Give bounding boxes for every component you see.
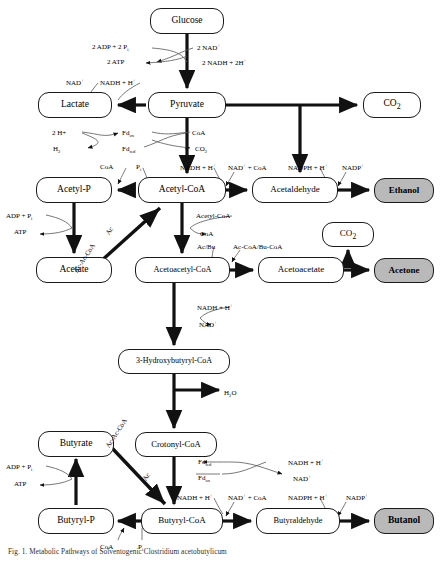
node-butyryl-p: Butyryl-P bbox=[38, 508, 114, 534]
cofactor-glyc-atp: 2 ATP bbox=[107, 58, 124, 66]
node-label: Butyrate bbox=[58, 439, 95, 449]
cofactor-bald-nadcoa: NAD+ + CoA bbox=[228, 493, 267, 502]
cofactor-bcd-fdox: Fdox bbox=[198, 474, 210, 483]
node-label: 3-Hydroxybutyryl-CoA bbox=[134, 357, 214, 365]
cofactor-bcd-fdred: Fdred bbox=[198, 458, 211, 467]
node-label: Acetone bbox=[387, 266, 422, 275]
node-butanol: Butanol bbox=[374, 508, 434, 534]
node-label: Butyryl-P bbox=[55, 516, 96, 526]
pathway-diagram: GlucosePyruvateLactateCO2Acetyl-PAcetyl-… bbox=[0, 0, 441, 563]
cofactor-bcd-nadh: NADH + H+ bbox=[288, 458, 324, 467]
node-co2-top: CO2 bbox=[363, 92, 421, 118]
cofactor-co2-pyr: CO2 bbox=[195, 145, 207, 154]
node-3-hydroxybutyryl: 3-Hydroxybutyryl-CoA bbox=[118, 349, 230, 374]
node-ethanol: Ethanol bbox=[374, 178, 434, 203]
cofactor-glyc-nad: 2 NAD+ bbox=[197, 43, 220, 52]
node-label: Butyraldehyde bbox=[272, 517, 325, 526]
node-acetyl-coa: Acetyl-CoA bbox=[138, 177, 226, 203]
cofactor-hbd-nad: NAD+ bbox=[199, 320, 217, 329]
cofactor-lac-nadh: NADH + H+ bbox=[100, 78, 136, 87]
cofactor-lac-nad: NAD+ bbox=[66, 78, 84, 87]
node-acetoacetate: Acetoacetate bbox=[258, 257, 344, 283]
node-butyrate: Butyrate bbox=[38, 431, 114, 457]
cofactor-ctf-acbu: Ac/Bu bbox=[197, 243, 215, 251]
node-label: Butyryl-CoA bbox=[156, 516, 208, 525]
node-acetoacetyl-coa: Acetoacetyl-CoA bbox=[135, 257, 230, 283]
node-label: Acetyl-P bbox=[55, 185, 93, 195]
cofactor-ace-adp: ADP + Pi bbox=[6, 212, 32, 221]
cofactor-h2-out: H2 bbox=[53, 145, 60, 154]
node-label: Crotonyl-CoA bbox=[149, 440, 203, 449]
cofactor-crt-h2o: H2O bbox=[224, 389, 236, 398]
cofactor-thl-coa: CoA bbox=[200, 230, 213, 238]
cofactor-thl-acoa: Acetyl-CoA bbox=[196, 212, 230, 220]
node-butyraldehyde: Butyraldehyde bbox=[256, 508, 340, 534]
node-label: Ethanol bbox=[387, 186, 422, 195]
cofactor-fdox-top: Fdox bbox=[122, 129, 134, 138]
cofactor-but-adp: ADP + Pi bbox=[6, 463, 32, 472]
node-label: CO2 bbox=[338, 229, 358, 241]
node-label: Acetaldehyde bbox=[268, 185, 321, 194]
cofactor-but-atp: ATP bbox=[14, 480, 26, 488]
cofactor-coa-pyr: CoA bbox=[192, 129, 205, 137]
cofactor-ctf-coa: Ac-CoA/Bu-CoA bbox=[233, 243, 282, 251]
cofactor-glyc-nadh: 2 NADH + 2H+ bbox=[202, 58, 246, 67]
cofactor-eth-nadph: NADPH + H+ bbox=[288, 163, 327, 172]
node-crotonyl-coa: Crotonyl-CoA bbox=[135, 432, 217, 457]
cofactor-eth-nadp: NADP+ bbox=[342, 163, 364, 172]
cofactor-bol-nadph: NADPH + H+ bbox=[288, 493, 327, 502]
node-glucose: Glucose bbox=[150, 8, 224, 34]
cofactor-bald-nadh: NADH + H+ bbox=[177, 493, 213, 502]
cofactor-glyc-adp: 2 ADP + 2 Pi bbox=[92, 43, 128, 52]
figure-caption: Fig. 1. Metabolic Pathways of Solventoge… bbox=[8, 548, 438, 556]
cofactor-ald-nadcoa: NAD+ + CoA bbox=[228, 163, 267, 172]
node-label: Butanol bbox=[386, 516, 422, 526]
node-label: Acetoacetyl-CoA bbox=[151, 266, 213, 275]
node-acetyl-p: Acetyl-P bbox=[36, 177, 112, 203]
node-label: Glucose bbox=[169, 16, 204, 26]
node-label: Acetyl-CoA bbox=[157, 185, 207, 195]
node-acetaldehyde: Acetaldehyde bbox=[252, 177, 338, 203]
cofactor-pi-ap: Pi bbox=[136, 163, 141, 172]
cofactor-bcd-nad: NAD+ bbox=[293, 474, 311, 483]
node-label: Acetoacetate bbox=[276, 265, 326, 274]
node-pyruvate: Pyruvate bbox=[148, 92, 226, 118]
cofactor-fdred-top: Fdred bbox=[122, 145, 135, 154]
node-acetone: Acetone bbox=[374, 258, 434, 283]
cofactor-ace-atp: ATP bbox=[14, 228, 26, 236]
cofactor-hbd-nadh: NADH + H+ bbox=[197, 303, 233, 312]
node-label: CO2 bbox=[381, 99, 402, 111]
cofactor-coa-ap: CoA bbox=[100, 163, 113, 171]
cofactor-bol-nadp: NADP+ bbox=[346, 493, 368, 502]
cofactor-h2-2h: 2 H+ bbox=[52, 129, 66, 137]
node-co2-mid: CO2 bbox=[322, 222, 374, 247]
node-lactate: Lactate bbox=[38, 92, 112, 118]
node-label: Pyruvate bbox=[168, 100, 206, 110]
node-butyryl-coa: Butyryl-CoA bbox=[141, 508, 223, 534]
node-label: Lactate bbox=[59, 100, 91, 110]
cofactor-ald-nadh: NADH + H+ bbox=[180, 163, 216, 172]
